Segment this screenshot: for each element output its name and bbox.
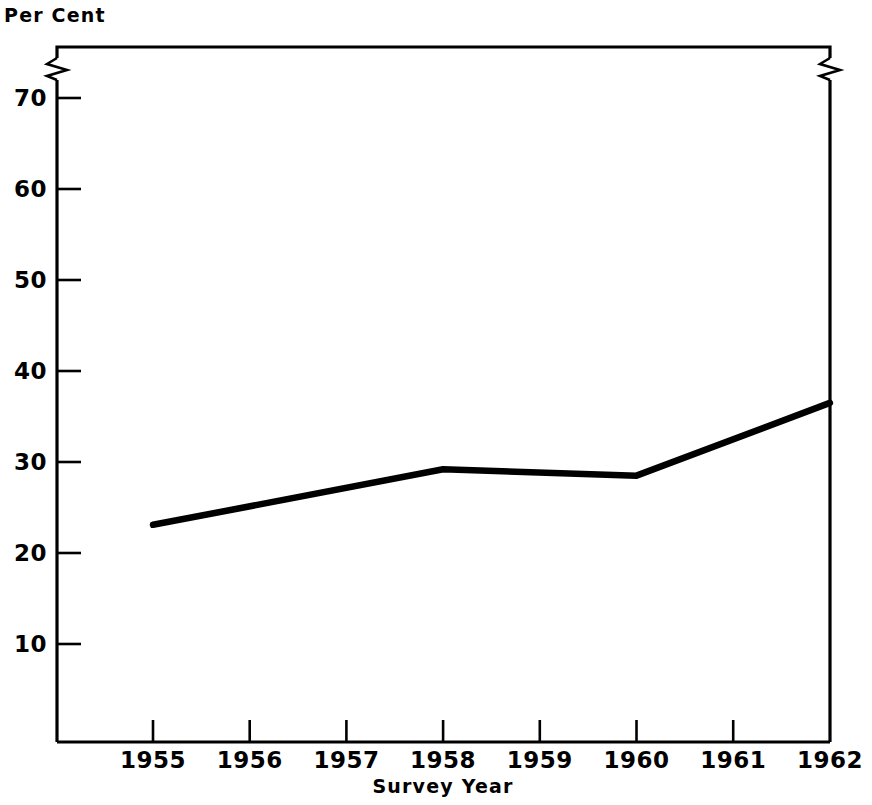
- x-tick-label: 1961: [700, 747, 766, 773]
- x-axis-ticks: 19551956195719581959196019611962: [120, 720, 863, 773]
- y-tick-label: 30: [14, 449, 47, 475]
- y-tick-label: 10: [14, 631, 47, 657]
- x-tick-label: 1958: [410, 747, 476, 773]
- y-axis-ticks: 70605040302010: [14, 85, 81, 657]
- x-axis-title: Survey Year: [372, 775, 513, 797]
- axis-break-icon-left: [47, 58, 67, 80]
- x-tick-label: 1959: [507, 747, 573, 773]
- y-axis-title: Per Cent: [4, 4, 106, 26]
- x-tick-label: 1962: [797, 747, 863, 773]
- x-tick-label: 1960: [603, 747, 669, 773]
- line-chart: Per Cent 70605040302010 1955195619571958…: [0, 0, 872, 805]
- axis-break-icon-right: [820, 58, 840, 80]
- y-tick-label: 60: [14, 176, 47, 202]
- x-tick-label: 1955: [120, 747, 186, 773]
- y-tick-label: 70: [14, 85, 47, 111]
- x-tick-label: 1957: [313, 747, 379, 773]
- y-tick-label: 20: [14, 540, 47, 566]
- chart-figure: Per Cent 70605040302010 1955195619571958…: [0, 0, 872, 805]
- plot-frame: [57, 47, 830, 742]
- frame-top: [57, 47, 830, 58]
- data-series-line: [153, 403, 830, 525]
- y-tick-label: 40: [14, 358, 47, 384]
- y-tick-label: 50: [14, 267, 47, 293]
- x-tick-label: 1956: [217, 747, 283, 773]
